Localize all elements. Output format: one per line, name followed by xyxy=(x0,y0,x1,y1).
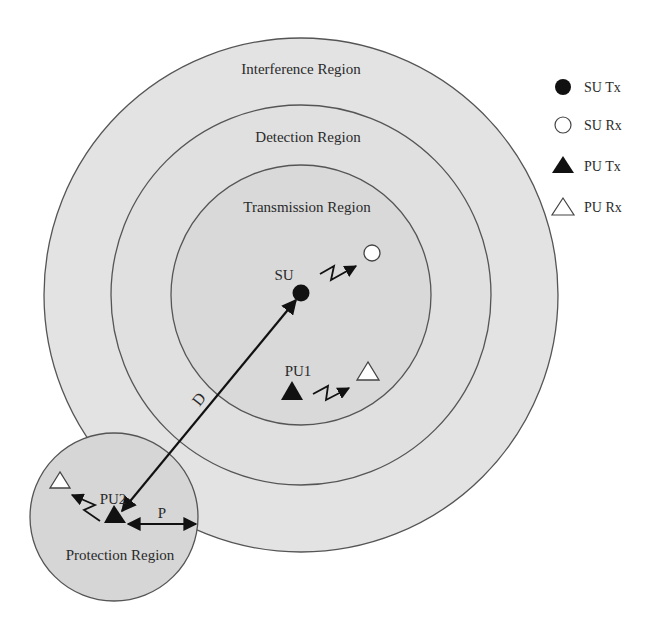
su-label: SU xyxy=(274,267,293,283)
legend-pu-rx-icon xyxy=(552,198,574,215)
interference-region-label: Interference Region xyxy=(241,61,361,77)
legend-pu-tx-label: PU Tx xyxy=(584,159,621,174)
legend-su-tx-label: SU Tx xyxy=(584,80,621,95)
transmission-region-label: Transmission Region xyxy=(243,199,371,215)
legend-su-rx-label: SU Rx xyxy=(584,118,622,133)
legend-su-tx-icon xyxy=(555,79,571,95)
detection-region-label: Detection Region xyxy=(255,129,361,145)
protection-region-label: Protection Region xyxy=(66,547,175,563)
pu2-label: PU2 xyxy=(100,491,127,507)
su-rx-icon xyxy=(364,245,380,261)
legend-pu-tx-icon xyxy=(552,156,574,173)
legend-su-rx-icon xyxy=(555,117,571,133)
distance-p-label: P xyxy=(158,505,166,521)
su-tx-icon xyxy=(293,285,310,302)
legend: SU Tx SU Rx PU Tx PU Rx xyxy=(552,79,622,215)
pu1-label: PU1 xyxy=(285,363,312,379)
legend-pu-rx-label: PU Rx xyxy=(584,200,622,215)
diagram-canvas: Interference Region Detection Region Tra… xyxy=(0,0,660,633)
